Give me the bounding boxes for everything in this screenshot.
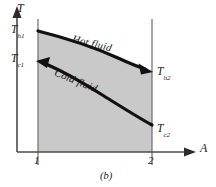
temp-label-cold-in: Tc2 [157, 123, 170, 137]
temp-subscript-cold-out: c1 [17, 61, 24, 69]
temp-label-hot-out: Th2 [157, 66, 171, 80]
x-axis-label: A [200, 142, 207, 154]
temp-subscript-hot-in: h1 [17, 32, 24, 40]
temp-subscript-hot-out: h2 [163, 74, 170, 82]
tick-label-station-2: 2 [148, 155, 154, 166]
diagram-canvas [0, 0, 216, 187]
temp-label-cold-out: Tc1 [11, 53, 24, 67]
area-axis-arrow-icon [184, 148, 196, 157]
tick-label-station-1: 1 [34, 155, 40, 166]
figure-caption: (b) [100, 171, 112, 182]
temp-subscript-cold-in: c2 [163, 131, 170, 139]
temp-label-hot-in: Th1 [11, 24, 25, 38]
y-axis-label: T [17, 2, 24, 14]
heat-exchanger-temperature-profile-figure: T A Th1 Tc1 Th2 Tc2 Hot fluid Cold fluid… [0, 0, 216, 187]
